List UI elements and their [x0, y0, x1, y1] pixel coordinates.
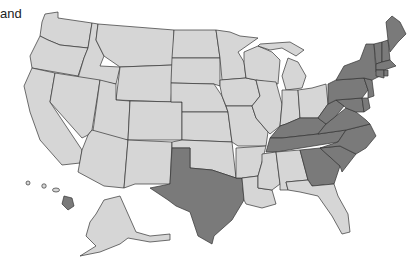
state-nm[interactable]: [124, 140, 172, 188]
state-ny[interactable]: [336, 44, 380, 80]
state-ia[interactable]: [220, 78, 260, 106]
state-ks[interactable]: [182, 112, 232, 142]
state-az[interactable]: [78, 130, 128, 188]
state-mt[interactable]: [96, 24, 174, 67]
state-me[interactable]: [386, 16, 406, 52]
state-mi-lower[interactable]: [282, 58, 306, 90]
state-nd[interactable]: [172, 30, 220, 58]
hawaii-kauai[interactable]: [26, 181, 30, 185]
state-fl[interactable]: [286, 180, 350, 234]
state-co[interactable]: [128, 101, 182, 140]
us-map: [0, 0, 409, 260]
hawaii-maui[interactable]: [53, 188, 60, 192]
hawaii-oahu[interactable]: [42, 184, 46, 188]
state-wy[interactable]: [116, 65, 173, 102]
state-ak[interactable]: [80, 196, 170, 256]
state-wi[interactable]: [244, 46, 280, 84]
state-ri[interactable]: [384, 70, 388, 76]
state-sd[interactable]: [171, 58, 220, 86]
hawaii-big-island[interactable]: [62, 196, 74, 210]
